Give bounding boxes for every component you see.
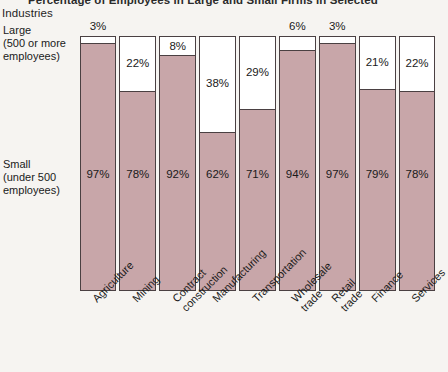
legend-label-small-line-1: Small xyxy=(3,158,60,171)
bar-segment-small xyxy=(320,43,355,290)
bar-segment-small xyxy=(360,89,395,290)
bar-outline: 78% xyxy=(119,36,156,291)
bar-column[interactable]: 78%22% xyxy=(399,36,436,291)
legend-label-large-line-3: employees) xyxy=(3,50,66,63)
bar-value-small: 78% xyxy=(120,168,155,180)
bar-value-small: 79% xyxy=(360,168,395,180)
bar-value-large: 21% xyxy=(359,56,396,68)
bar-outline: 92% xyxy=(159,36,196,291)
bar-value-small: 97% xyxy=(81,168,116,180)
bar-column[interactable]: 62%38% xyxy=(199,36,236,291)
chart-title-line-2: Industries xyxy=(0,7,441,20)
bar-value-small: 78% xyxy=(400,168,435,180)
legend-label-small: Small (under 500 employees) xyxy=(3,158,60,197)
bar-outline: 97% xyxy=(319,36,356,291)
bar-segment-small xyxy=(400,91,435,290)
chart-title: Percentage of Employees in Large and Sma… xyxy=(0,0,441,20)
bar-segment-small xyxy=(81,43,116,290)
bar-value-large: 3% xyxy=(319,20,356,32)
bar-value-large: 6% xyxy=(279,20,316,32)
legend-label-small-line-3: employees) xyxy=(3,184,60,197)
bar-value-large: 3% xyxy=(80,20,117,32)
bar-outline: 78% xyxy=(399,36,436,291)
bar-value-large: 38% xyxy=(199,77,236,89)
legend-label-large-line-1: Large xyxy=(3,24,66,37)
bar-value-small: 94% xyxy=(280,168,315,180)
bar-column[interactable]: 78%22% xyxy=(119,36,156,291)
bar-outline: 79% xyxy=(359,36,396,291)
chart-title-line-1: Percentage of Employees in Large and Sma… xyxy=(0,0,441,7)
bar-value-large: 22% xyxy=(119,57,156,69)
bar-value-small: 97% xyxy=(320,168,355,180)
bar-value-large: 22% xyxy=(399,57,436,69)
bar-column[interactable]: 97%3% xyxy=(80,36,117,291)
bar-value-large: 29% xyxy=(239,66,276,78)
bar-column[interactable]: 79%21% xyxy=(359,36,396,291)
bar-column[interactable]: 97%3% xyxy=(319,36,356,291)
bar-column[interactable]: 92%8% xyxy=(159,36,196,291)
legend-label-large-line-2: (500 or more xyxy=(3,37,66,50)
bar-value-small: 71% xyxy=(240,168,275,180)
bar-value-large: 8% xyxy=(159,40,196,52)
legend-label-small-line-2: (under 500 xyxy=(3,171,60,184)
legend-label-large: Large (500 or more employees) xyxy=(3,24,66,63)
bar-value-small: 62% xyxy=(200,168,235,180)
bar-value-small: 92% xyxy=(160,168,195,180)
bar-outline: 62% xyxy=(199,36,236,291)
bar-outline: 97% xyxy=(80,36,117,291)
